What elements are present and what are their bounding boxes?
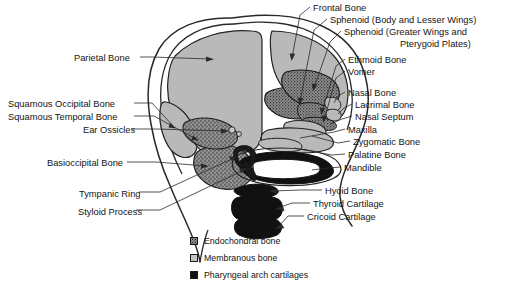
label-thyroid-cartilage: Thyroid Cartilage xyxy=(313,199,384,210)
label-maxilla: Maxilla xyxy=(348,125,377,136)
label-nasal-septum: Nasal Septum xyxy=(355,112,413,123)
endochondral-swatch xyxy=(190,237,198,245)
label-vomer: Vomer xyxy=(348,67,375,78)
label-tympanic-ring: Tympanic Ring xyxy=(79,189,141,200)
label-sphenoid-body-lesser-wings: Sphenoid (Body and Lesser Wings) xyxy=(330,15,476,26)
pharyngeal-swatch xyxy=(190,271,198,279)
label-parietal-bone: Parietal Bone xyxy=(74,53,130,64)
skull-group xyxy=(127,7,368,262)
membranous-swatch xyxy=(190,254,198,262)
label-lacrimal-bone: Lacrimal Bone xyxy=(355,100,414,111)
label-cricoid-cartilage: Cricoid Cartilage xyxy=(307,212,376,223)
legend-label-endochondral-bone: Endochondral bone xyxy=(204,236,280,246)
label-mandible: Mandible xyxy=(344,163,382,174)
figure-root: Parietal Bone Squamous Occipital Bone Sq… xyxy=(0,0,518,291)
label-frontal-bone: Frontal Bone xyxy=(313,3,366,14)
leader-hyoid xyxy=(272,190,322,191)
label-zygomatic-bone: Zygomatic Bone xyxy=(353,137,420,148)
label-sphenoid-greater-wings-line2: Pterygoid Plates) xyxy=(400,39,471,50)
label-sphenoid-greater-wings-line1: Sphenoid (Greater Wings and xyxy=(344,27,467,38)
label-ear-ossicles: Ear Ossicles xyxy=(83,125,135,136)
label-squamous-occipital-bone: Squamous Occipital Bone xyxy=(8,99,115,110)
label-palatine-bone: Palatine Bone xyxy=(348,150,406,161)
legend-label-pharyngeal-arch-cartilages: Pharyngeal arch cartilages xyxy=(204,270,308,280)
label-hyoid-bone: Hyoid Bone xyxy=(325,186,373,197)
label-ethmoid-bone: Ethmoid Bone xyxy=(348,55,406,66)
legend-label-membranous-bone: Membranous bone xyxy=(204,253,277,263)
label-nasal-bone: Nasal Bone xyxy=(348,88,396,99)
label-squamous-temporal-bone: Squamous Temporal Bone xyxy=(8,112,117,123)
label-styloid-process: Styloid Process xyxy=(78,207,142,218)
label-basioccipital-bone: Basioccipital Bone xyxy=(47,158,123,169)
